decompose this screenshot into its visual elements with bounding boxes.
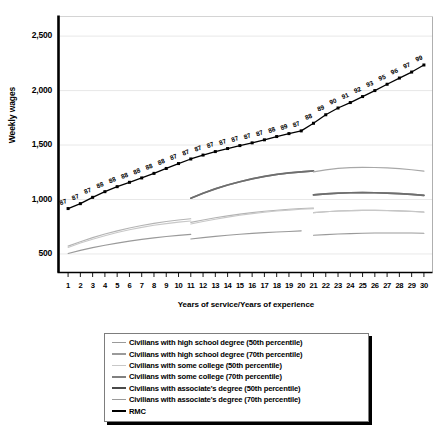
legend-item: Civilians with associate's degree (70th … (109, 394, 364, 405)
legend-line-icon (109, 353, 129, 354)
legend-item: Civilians with high school degree (70th … (109, 348, 364, 359)
legend-line-icon (109, 365, 129, 366)
legend-item-label: Civilians with some college (70th percen… (129, 371, 282, 382)
legend-line-icon (109, 342, 129, 343)
legend-line-icon (109, 410, 129, 413)
legend-item-label: Civilians with associate's degree (70th … (129, 394, 300, 405)
legend-line-icon (109, 399, 129, 400)
legend-item-label: Civilians with associate's degree (50th … (129, 383, 300, 394)
legend-item: Civilians with some college (50th percen… (109, 360, 364, 371)
legend-item-label: RMC (129, 406, 146, 417)
chart-legend: Civilians with high school degree (50th … (104, 333, 369, 422)
legend-item: Civilians with associate's degree (50th … (109, 383, 364, 394)
legend-item-label: Civilians with some college (50th percen… (129, 360, 282, 371)
legend-item: Civilians with some college (70th percen… (109, 371, 364, 382)
legend-item: RMC (109, 405, 364, 416)
legend-line-icon (109, 387, 129, 389)
legend-item-label: Civilians with high school degree (70th … (129, 349, 302, 360)
legend-line-icon (109, 376, 129, 378)
legend-item-label: Civilians with high school degree (50th … (129, 337, 302, 348)
chart-figure: Weekly wages Years of service/Years of e… (0, 0, 446, 440)
legend-item: Civilians with high school degree (50th … (109, 337, 364, 348)
